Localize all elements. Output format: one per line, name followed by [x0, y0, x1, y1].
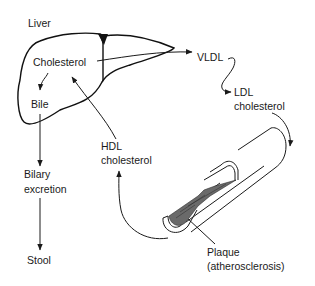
artery-illustration: [163, 128, 286, 233]
ldl-label-2: cholesterol: [234, 100, 285, 112]
hdl-label-2: cholesterol: [101, 154, 152, 166]
hdl-label-1: HDL: [101, 140, 122, 152]
arrow-vldl-to-ldl: [222, 58, 235, 92]
arrow-artery-to-hdl: [119, 171, 168, 239]
liver-label: Liver: [28, 17, 51, 29]
arrow-ldl-to-artery: [272, 113, 290, 146]
arrow-cholesterol-to-bile: [40, 73, 48, 90]
cholesterol-label: Cholesterol: [33, 56, 86, 68]
biliary-excretion-label-2: excretion: [24, 183, 67, 195]
biliary-excretion-label-1: Bilary: [24, 168, 51, 180]
vldl-label: VLDL: [197, 51, 223, 63]
ldl-label-1: LDL: [234, 86, 253, 98]
arrow-hdl-to-cholesterol: [72, 77, 116, 139]
plaque-label-2: (atherosclerosis): [207, 260, 285, 272]
stool-label: Stool: [27, 254, 51, 266]
plaque-label-1: Plaque: [207, 246, 240, 258]
cholesterol-pathway-diagram: Liver Cholesterol Bile Bilary excretion …: [0, 0, 315, 286]
liver-shape: [18, 33, 174, 124]
pathway-arrows: [40, 52, 290, 250]
bile-label: Bile: [31, 98, 49, 110]
